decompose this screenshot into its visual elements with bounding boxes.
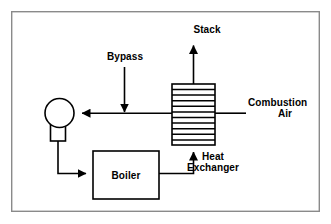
- fan-to-boiler-group: [58, 141, 86, 174]
- heat-exchanger-assembly: [172, 84, 215, 145]
- fan-blower-assembly: [45, 99, 74, 142]
- combustion-air-label-line2: Air: [278, 108, 292, 119]
- process-flow-diagram: Stack Bypass Combustion Air Heat Exchang…: [0, 0, 331, 224]
- heat-exchanger-label-line2: Exchanger: [187, 162, 239, 173]
- heat-exchanger-label-line1: Heat: [202, 151, 225, 162]
- diagram-canvas: Stack Bypass Combustion Air Heat Exchang…: [0, 0, 331, 224]
- fan-impeller-circle: [45, 99, 74, 128]
- combustion-air-label-line1: Combustion: [248, 97, 307, 108]
- heat-exchanger-shell: [172, 84, 215, 145]
- boiler-label: Boiler: [112, 170, 141, 181]
- fan-to-boiler-line: [58, 141, 86, 174]
- stack-label: Stack: [193, 24, 221, 35]
- bypass-label: Bypass: [107, 51, 144, 62]
